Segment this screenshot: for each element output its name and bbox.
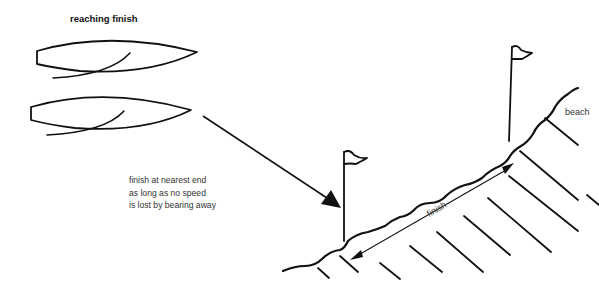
diagram-canvas xyxy=(0,0,599,297)
diagram-title: reaching finish xyxy=(70,13,138,24)
shoreline xyxy=(283,88,578,271)
course-arrow xyxy=(203,116,341,208)
note-line: finish at nearest end xyxy=(129,174,216,187)
beach-label: beach xyxy=(565,107,590,117)
boat-lower xyxy=(31,97,191,135)
finish-note: finish at nearest end as long as no spee… xyxy=(129,174,216,212)
boat-upper xyxy=(37,41,197,78)
note-line: as long as no speed xyxy=(129,187,216,200)
finish-flag-far xyxy=(509,46,532,141)
note-line: is lost by bearing away xyxy=(129,199,216,212)
finish-flag-near xyxy=(344,151,367,241)
